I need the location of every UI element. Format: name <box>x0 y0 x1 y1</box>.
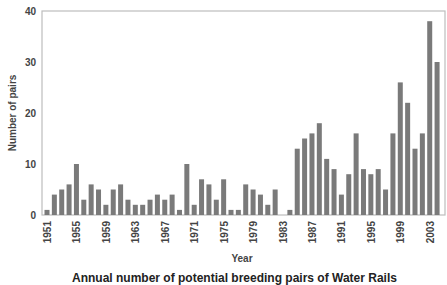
bar-1996 <box>376 169 381 215</box>
x-axis-ticks: 1951195519591963196719711975197919831987… <box>42 221 436 244</box>
bar-1964 <box>140 205 145 215</box>
bar-1999 <box>398 82 403 215</box>
bar-1998 <box>390 133 395 215</box>
y-tick-label: 10 <box>25 159 37 170</box>
x-tick-label: 1995 <box>366 221 377 244</box>
bar-1976 <box>229 210 234 215</box>
x-axis-title: Year <box>231 253 252 264</box>
bar-1997 <box>383 190 388 216</box>
y-tick-label: 0 <box>30 210 36 221</box>
bar-1974 <box>214 200 219 215</box>
bar-1951 <box>45 210 50 215</box>
bar-2004 <box>435 62 440 215</box>
y-axis-title: Number of pairs <box>7 74 18 151</box>
bar-2002 <box>420 133 425 215</box>
bar-1963 <box>133 205 138 215</box>
bar-1970 <box>184 164 189 215</box>
bar-1995 <box>368 174 373 215</box>
bar-1993 <box>354 133 359 215</box>
x-tick-label: 1971 <box>189 221 200 244</box>
bar-1986 <box>302 139 307 216</box>
x-tick-label: 2003 <box>425 221 436 244</box>
bar-1975 <box>221 179 226 215</box>
x-tick-label: 1975 <box>219 221 230 244</box>
x-tick-label: 1991 <box>336 221 347 244</box>
x-tick-label: 1959 <box>101 221 112 244</box>
bar-1989 <box>324 159 329 215</box>
bar-1965 <box>148 200 153 215</box>
bars <box>45 21 440 215</box>
x-tick-label: 1999 <box>395 221 406 244</box>
bar-1992 <box>346 174 351 215</box>
bar-1987 <box>309 133 314 215</box>
bar-1978 <box>243 184 248 215</box>
bar-1972 <box>199 179 204 215</box>
bar-1958 <box>96 190 101 216</box>
bar-1954 <box>67 184 72 215</box>
x-tick-label: 1983 <box>278 221 289 244</box>
bar-1960 <box>111 190 116 216</box>
bar-1985 <box>295 149 300 215</box>
bar-1973 <box>206 184 211 215</box>
bar-1955 <box>74 164 79 215</box>
bar-2001 <box>413 149 418 215</box>
bar-1966 <box>155 195 160 215</box>
bar-1952 <box>52 195 57 215</box>
bar-1990 <box>332 169 337 215</box>
bar-1959 <box>103 205 108 215</box>
y-axis-ticks: 010203040 <box>25 6 37 221</box>
x-tick-label: 1963 <box>130 221 141 244</box>
bar-1967 <box>162 200 167 215</box>
bar-1977 <box>236 210 241 215</box>
bar-1953 <box>59 190 64 216</box>
bar-2000 <box>405 103 410 215</box>
x-tick-label: 1951 <box>42 221 53 244</box>
x-tick-label: 1979 <box>248 221 259 244</box>
x-tick-label: 1955 <box>71 221 82 244</box>
bar-1984 <box>287 210 292 215</box>
bar-1956 <box>81 200 86 215</box>
y-tick-label: 20 <box>25 108 37 119</box>
y-tick-label: 30 <box>25 57 37 68</box>
bar-1957 <box>89 184 94 215</box>
bar-1981 <box>265 205 270 215</box>
bar-1994 <box>361 169 366 215</box>
bar-1979 <box>251 190 256 216</box>
x-tick-label: 1987 <box>307 221 318 244</box>
bar-1968 <box>170 195 175 215</box>
bar-1988 <box>317 123 322 215</box>
figure-caption: Annual number of potential breeding pair… <box>72 271 397 285</box>
x-tick-label: 1967 <box>160 221 171 244</box>
bar-1980 <box>258 195 263 215</box>
bar-1982 <box>273 190 278 216</box>
bar-2003 <box>427 21 432 215</box>
bar-1991 <box>339 195 344 215</box>
bar-1961 <box>118 184 123 215</box>
bar-1962 <box>125 200 130 215</box>
y-tick-label: 40 <box>25 6 37 17</box>
bar-1971 <box>192 205 197 215</box>
bar-1969 <box>177 210 182 215</box>
